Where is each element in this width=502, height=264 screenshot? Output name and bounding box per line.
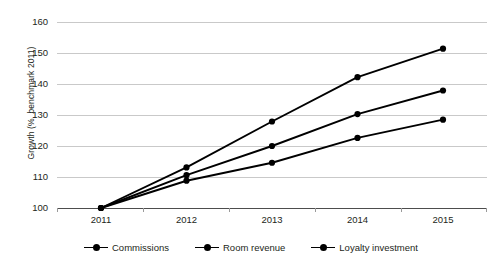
legend-marker-icon <box>195 242 219 252</box>
y-axis-tick-label: 100 <box>14 203 48 213</box>
y-axis-tick-label: 160 <box>14 17 48 27</box>
x-axis-tick-label: 2014 <box>328 214 388 225</box>
legend-marker-icon <box>311 242 335 252</box>
legend-item[interactable]: Commissions <box>84 242 169 253</box>
gridline <box>57 177 487 178</box>
legend-marker-icon <box>84 242 108 252</box>
x-axis-tick <box>57 208 58 212</box>
legend-item[interactable]: Loyalty investment <box>311 242 418 253</box>
gridline <box>57 115 487 116</box>
x-axis-tick <box>401 208 402 212</box>
plot-area <box>57 22 487 208</box>
legend-label: Commissions <box>112 242 169 253</box>
x-axis-tick-label: 2013 <box>242 214 302 225</box>
x-axis-tick <box>315 208 316 212</box>
x-axis-tick <box>229 208 230 212</box>
x-axis-line <box>57 208 487 209</box>
y-axis-tick-label: 150 <box>14 48 48 58</box>
gridline <box>57 146 487 147</box>
x-axis-tick <box>486 208 487 212</box>
legend-label: Room revenue <box>223 242 285 253</box>
x-axis-tick-label: 2012 <box>157 214 217 225</box>
y-axis-tick-label: 120 <box>14 141 48 151</box>
y-axis-tick-label: 110 <box>14 172 48 182</box>
x-axis-tick <box>143 208 144 212</box>
gridline <box>57 22 487 23</box>
gridline <box>57 84 487 85</box>
legend-label: Loyalty investment <box>339 242 418 253</box>
x-axis-tick-label: 2011 <box>71 214 131 225</box>
x-axis-tick-label: 2015 <box>413 214 473 225</box>
chart-legend: CommissionsRoom revenueLoyalty investmen… <box>0 239 502 255</box>
legend-item[interactable]: Room revenue <box>195 242 285 253</box>
gridline <box>57 53 487 54</box>
line-chart: Growth (%, benchmark 2011) 1001101201301… <box>0 0 502 264</box>
y-axis-tick-label: 130 <box>14 110 48 120</box>
y-axis-tick-label: 140 <box>14 79 48 89</box>
